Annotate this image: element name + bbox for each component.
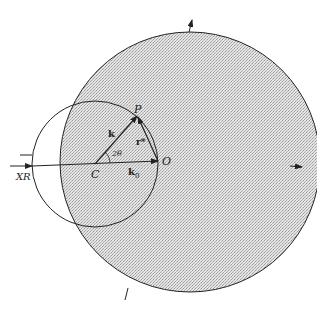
label-k0-subscript: 0 — [135, 172, 139, 180]
label-r-star: r* — [136, 137, 146, 147]
label-XR: XR — [15, 171, 31, 182]
ewald-diagram: P O C XR k k 0 r* 2θ — [0, 0, 317, 316]
axis-bottom-tick — [125, 288, 128, 300]
limiting-sphere — [60, 32, 317, 292]
diagram-canvas: P O C XR k k 0 r* 2θ — [0, 0, 317, 316]
label-O: O — [162, 155, 171, 168]
label-C: C — [91, 168, 100, 181]
label-P: P — [133, 103, 142, 116]
label-k: k — [108, 128, 116, 139]
axis-top-tick — [189, 20, 192, 32]
label-two-theta: 2θ — [111, 149, 122, 158]
